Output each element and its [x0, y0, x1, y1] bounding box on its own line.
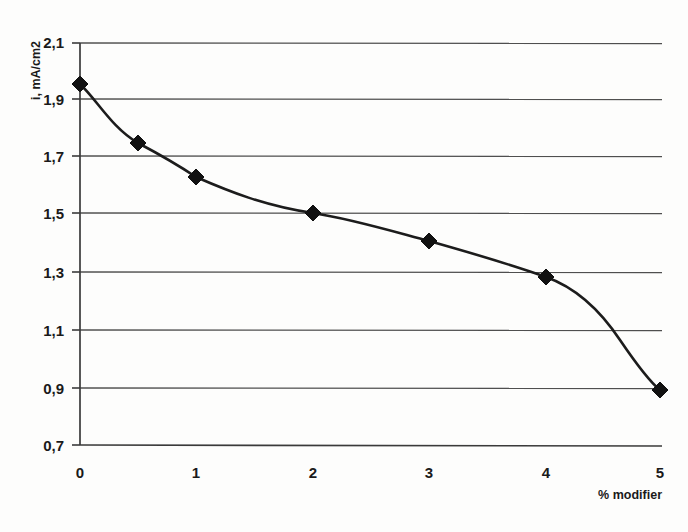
y-tick-marks — [72, 43, 80, 445]
gridlines — [80, 43, 662, 389]
data-point-2 — [188, 169, 204, 185]
data-markers — [72, 76, 668, 398]
gridline-1.9 — [80, 99, 662, 100]
data-point-5 — [538, 269, 554, 285]
data-point-1 — [130, 135, 146, 151]
x-tick-label-4: 4 — [542, 464, 551, 481]
data-point-4 — [421, 233, 437, 249]
gridline-1.1 — [80, 330, 662, 331]
y-axis-title: i, mA/cm2 — [29, 41, 43, 100]
gridline-2.1 — [80, 43, 662, 44]
x-tick-labels: 0 1 2 3 4 5 — [76, 464, 664, 481]
x-tick-label-1: 1 — [192, 464, 200, 481]
gridline-0.9 — [80, 388, 662, 389]
gridline-1.5 — [80, 213, 662, 214]
y-tick-label-1.7: 1,7 — [43, 148, 64, 165]
y-tick-label-1.5: 1,5 — [43, 205, 64, 222]
axes-lines — [80, 43, 662, 446]
y-tick-label-1.1: 1,1 — [43, 322, 64, 339]
x-tick-label-2: 2 — [309, 464, 317, 481]
data-point-3 — [305, 205, 321, 221]
x-tick-label-0: 0 — [76, 464, 84, 481]
gridline-1.3 — [80, 272, 662, 273]
chart-figure: 2,1 1,9 1,7 1,5 1,3 1,1 0,9 0,7 0 1 2 3 … — [0, 0, 688, 532]
gridline-1.7 — [80, 156, 662, 157]
data-series-line — [80, 84, 660, 390]
line-chart-plot: 2,1 1,9 1,7 1,5 1,3 1,1 0,9 0,7 0 1 2 3 … — [0, 0, 688, 532]
y-tick-labels: 2,1 1,9 1,7 1,5 1,3 1,1 0,9 0,7 — [43, 34, 64, 454]
y-tick-label-0.7: 0,7 — [43, 437, 64, 454]
x-axis-line — [80, 445, 662, 446]
y-tick-label-1.9: 1,9 — [43, 91, 64, 108]
x-axis-title: % modifier — [598, 488, 662, 502]
y-tick-label-2.1: 2,1 — [43, 34, 64, 51]
x-tick-label-5: 5 — [656, 464, 664, 481]
y-tick-label-1.3: 1,3 — [43, 264, 64, 281]
y-tick-label-0.9: 0,9 — [43, 380, 64, 397]
x-tick-label-3: 3 — [425, 464, 433, 481]
